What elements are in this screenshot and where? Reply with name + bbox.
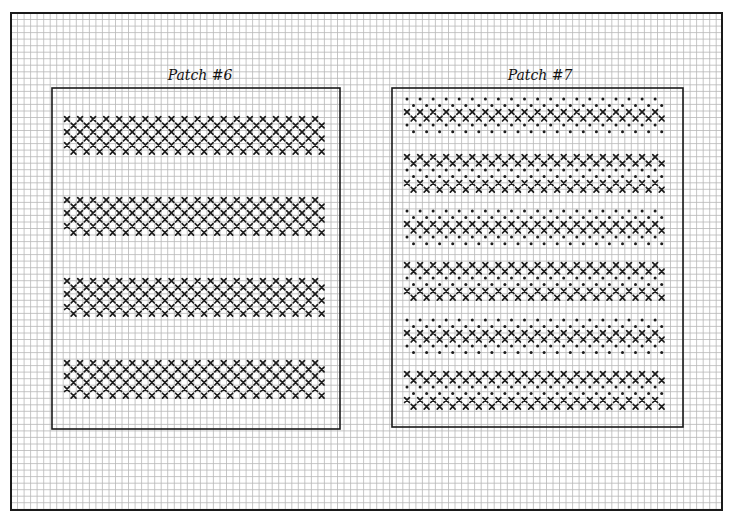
- cross-stitch-icon: [607, 116, 612, 121]
- dot-stitch-icon: [588, 169, 591, 172]
- cross-stitch-icon: [208, 387, 213, 392]
- cross-stitch-icon: [221, 224, 226, 229]
- cross-stitch-icon: [267, 217, 272, 222]
- dot-stitch-icon: [647, 130, 650, 133]
- dot-stitch-icon: [543, 175, 546, 178]
- dot-stitch-icon: [490, 283, 493, 286]
- cross-stitch-icon: [97, 393, 102, 398]
- dot-stitch-icon: [654, 345, 657, 348]
- cross-stitch-icon: [535, 110, 540, 115]
- dot-stitch-icon: [438, 216, 441, 219]
- cross-stitch-icon: [319, 217, 324, 222]
- cross-stitch-icon: [607, 269, 612, 274]
- cross-stitch-icon: [117, 224, 122, 229]
- cross-stitch-icon: [156, 361, 161, 366]
- dot-stitch-icon: [654, 386, 657, 389]
- cross-stitch-icon: [65, 224, 70, 229]
- dot-stitch-icon: [569, 130, 572, 133]
- dot-stitch-icon: [628, 277, 631, 280]
- cross-stitch-icon: [503, 116, 508, 121]
- dot-stitch-icon: [490, 104, 493, 107]
- dot-stitch-icon: [432, 345, 435, 348]
- cross-stitch-icon: [110, 393, 115, 398]
- dot-stitch-icon: [556, 242, 559, 245]
- dot-stitch-icon: [543, 351, 546, 354]
- cross-stitch-icon: [431, 289, 436, 294]
- cross-stitch-icon: [149, 380, 154, 385]
- cross-stitch-icon: [319, 204, 324, 209]
- dot-stitch-icon: [419, 124, 422, 127]
- cross-stitch-icon: [476, 116, 481, 121]
- cross-stitch-icon: [319, 367, 324, 372]
- cross-stitch-icon: [529, 228, 534, 233]
- cross-stitch-icon: [581, 269, 586, 274]
- dot-stitch-icon: [621, 175, 624, 178]
- cross-stitch-icon: [215, 367, 220, 372]
- cross-stitch-icon: [195, 224, 200, 229]
- cross-stitch-icon: [306, 217, 311, 222]
- dot-stitch-icon: [549, 277, 552, 280]
- dot-stitch-icon: [641, 277, 644, 280]
- dot-stitch-icon: [641, 124, 644, 127]
- cross-stitch-icon: [280, 217, 285, 222]
- dot-stitch-icon: [406, 345, 409, 348]
- cross-stitch-icon: [156, 387, 161, 392]
- cross-stitch-icon: [123, 230, 128, 235]
- cross-stitch-icon: [614, 110, 619, 115]
- dot-stitch-icon: [484, 277, 487, 280]
- cross-stitch-icon: [319, 393, 324, 398]
- dot-stitch-icon: [536, 345, 539, 348]
- dot-stitch-icon: [595, 130, 598, 133]
- dot-stitch-icon: [634, 216, 637, 219]
- dot-stitch-icon: [510, 345, 513, 348]
- cross-stitch-icon: [313, 198, 318, 203]
- dot-stitch-icon: [406, 277, 409, 280]
- dot-stitch-icon: [458, 319, 461, 322]
- cross-stitch-icon: [306, 393, 311, 398]
- cross-stitch-icon: [104, 387, 109, 392]
- dot-stitch-icon: [575, 319, 578, 322]
- cross-stitch-icon: [91, 224, 96, 229]
- dot-stitch-icon: [510, 319, 513, 322]
- cross-stitch-icon: [614, 289, 619, 294]
- dot-stitch-icon: [438, 130, 441, 133]
- dot-stitch-icon: [562, 124, 565, 127]
- cross-stitch-icon: [176, 380, 181, 385]
- cross-stitch-icon: [254, 217, 259, 222]
- cross-stitch-icon: [548, 110, 553, 115]
- dot-stitch-icon: [595, 351, 598, 354]
- dot-stitch-icon: [562, 236, 565, 239]
- dot-stitch-icon: [497, 277, 500, 280]
- cross-stitch-icon: [594, 228, 599, 233]
- cross-stitch-icon: [503, 295, 508, 300]
- dot-stitch-icon: [530, 351, 533, 354]
- cross-stitch-icon: [568, 269, 573, 274]
- dot-stitch-icon: [471, 319, 474, 322]
- dot-stitch-icon: [569, 392, 572, 395]
- dot-stitch-icon: [464, 216, 467, 219]
- cross-stitch-icon: [182, 361, 187, 366]
- dot-stitch-icon: [477, 130, 480, 133]
- dot-stitch-icon: [471, 386, 474, 389]
- cross-stitch-icon: [411, 295, 416, 300]
- dot-stitch-icon: [641, 236, 644, 239]
- cross-stitch-icon: [627, 289, 632, 294]
- cross-stitch-icon: [313, 374, 318, 379]
- cross-stitch-icon: [65, 198, 70, 203]
- dot-stitch-icon: [641, 319, 644, 322]
- cross-stitch-icon: [65, 361, 70, 366]
- dot-stitch-icon: [536, 236, 539, 239]
- cross-stitch-icon: [287, 361, 292, 366]
- cross-stitch-icon: [110, 217, 115, 222]
- dot-stitch-icon: [575, 169, 578, 172]
- cross-stitch-icon: [646, 228, 651, 233]
- cross-stitch-icon: [234, 224, 239, 229]
- dot-stitch-icon: [419, 210, 422, 213]
- cross-stitch-icon: [535, 289, 540, 294]
- cross-stitch-icon: [110, 230, 115, 235]
- cross-stitch-icon: [189, 367, 194, 372]
- cross-stitch-icon: [463, 269, 468, 274]
- dot-stitch-icon: [621, 283, 624, 286]
- cross-stitch-icon: [574, 289, 579, 294]
- dot-stitch-icon: [647, 325, 650, 328]
